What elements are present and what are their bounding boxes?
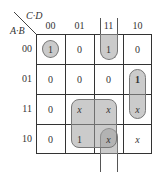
cell-11-10: x bbox=[123, 94, 152, 124]
cell-11-11: x bbox=[94, 94, 123, 124]
wrap-wire-top-right bbox=[117, 18, 118, 34]
corner-diagonal bbox=[0, 0, 40, 40]
wrap-wire-top-left bbox=[100, 18, 101, 34]
cell-01-00: 0 bbox=[36, 64, 65, 94]
col-header-10: 10 bbox=[123, 20, 152, 32]
col-header-11: 11 bbox=[94, 20, 123, 32]
wrap-wire-bottom-left bbox=[100, 154, 101, 172]
row-header-10: 10 bbox=[4, 133, 32, 145]
wrap-wire-bottom-right bbox=[117, 154, 118, 172]
cell-00-11: 1 bbox=[94, 34, 123, 64]
cell-10-01: 1 bbox=[65, 124, 94, 154]
cell-00-10: 0 bbox=[123, 34, 152, 64]
cell-10-00: 0 bbox=[36, 124, 65, 154]
row-header-01: 01 bbox=[4, 73, 32, 85]
cell-00-01: 0 bbox=[65, 34, 94, 64]
col-header-00: 00 bbox=[36, 20, 65, 32]
cell-01-01: 0 bbox=[65, 64, 94, 94]
row-header-00: 00 bbox=[4, 43, 32, 55]
col-header-01: 01 bbox=[65, 20, 94, 32]
cell-00-00: 1 bbox=[36, 34, 65, 64]
cell-01-11: 0 bbox=[94, 64, 123, 94]
row-header-11: 11 bbox=[4, 103, 32, 115]
cell-11-00: 0 bbox=[36, 94, 65, 124]
cell-10-10: x bbox=[123, 124, 152, 154]
cell-11-01: x bbox=[65, 94, 94, 124]
cell-01-10: 1 bbox=[123, 64, 152, 94]
cell-10-11: x bbox=[94, 124, 123, 154]
